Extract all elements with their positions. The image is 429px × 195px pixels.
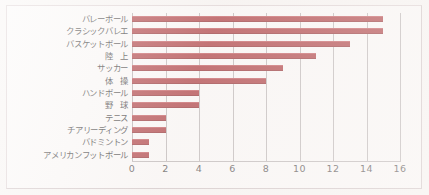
bar-row bbox=[132, 38, 400, 50]
category-label: 体 操 bbox=[105, 75, 128, 87]
bar bbox=[132, 28, 383, 34]
bar bbox=[132, 139, 149, 145]
category-label: ハンドボール bbox=[82, 87, 128, 99]
x-axis-line bbox=[132, 161, 401, 162]
bar bbox=[132, 78, 266, 84]
x-tick-label: 0 bbox=[129, 163, 136, 174]
category-label: バレーボール bbox=[82, 13, 128, 25]
chart-figure: バレーボールクラシックバレエバスケットボール陸 上サッカー体 操ハンドボール野 … bbox=[0, 0, 429, 195]
bar-row bbox=[132, 112, 400, 124]
category-label: チアリーディング bbox=[67, 124, 128, 136]
plot-area bbox=[132, 13, 400, 161]
bar-row bbox=[132, 149, 400, 161]
bar bbox=[132, 53, 316, 59]
bar-row bbox=[132, 99, 400, 111]
category-label: クラシックバレエ bbox=[66, 25, 128, 37]
bar bbox=[132, 127, 166, 133]
bar bbox=[132, 16, 383, 22]
x-tick-label: 2 bbox=[162, 163, 169, 174]
category-label: バスケットボール bbox=[66, 38, 128, 50]
bar-row bbox=[132, 25, 400, 37]
bar bbox=[132, 115, 166, 121]
bar-row bbox=[132, 124, 400, 136]
bar-row bbox=[132, 13, 400, 25]
bar bbox=[132, 102, 199, 108]
x-tick-label: 14 bbox=[360, 163, 373, 174]
gridline-16 bbox=[400, 13, 401, 161]
bar bbox=[132, 41, 350, 47]
category-label: サッカー bbox=[97, 62, 128, 74]
bar-row bbox=[132, 50, 400, 62]
x-tick-label: 12 bbox=[326, 163, 339, 174]
category-label: アメリカンフットボール bbox=[43, 149, 128, 161]
x-tick-label: 6 bbox=[229, 163, 236, 174]
x-tick-label: 16 bbox=[393, 163, 406, 174]
category-label: 野 球 bbox=[105, 99, 128, 111]
bar bbox=[132, 152, 149, 158]
x-tick-label: 10 bbox=[293, 163, 306, 174]
bar bbox=[132, 65, 283, 71]
bar-row bbox=[132, 75, 400, 87]
category-label: テニス bbox=[105, 112, 128, 124]
x-tick-label: 4 bbox=[196, 163, 203, 174]
value-axis-ticks: 0246810121416 bbox=[132, 163, 401, 179]
category-label: 陸 上 bbox=[105, 50, 128, 62]
bar-row bbox=[132, 136, 400, 148]
x-tick-label: 8 bbox=[263, 163, 270, 174]
bar-row bbox=[132, 62, 400, 74]
category-label: バドミントン bbox=[82, 136, 128, 148]
category-axis-labels: バレーボールクラシックバレエバスケットボール陸 上サッカー体 操ハンドボール野 … bbox=[6, 13, 128, 161]
bar bbox=[132, 90, 199, 96]
bar-row bbox=[132, 87, 400, 99]
